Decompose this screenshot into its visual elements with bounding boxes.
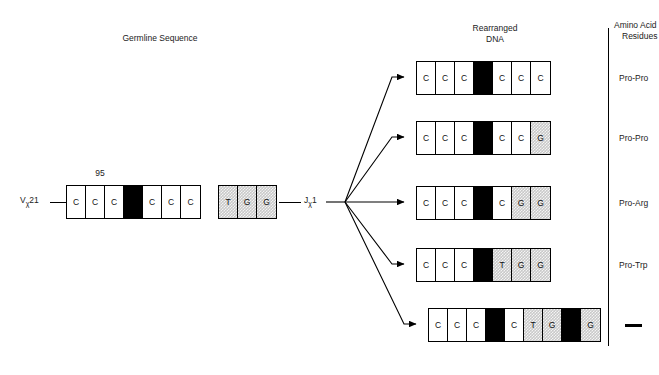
rearranged-row-2-cell-2: C [455,122,474,154]
rearranged-row-4-cell-2: C [455,249,474,281]
rearranged-row-5-cell-1: C [448,309,467,341]
germline-v-cell-6: C [181,186,200,218]
germline-v-cell-1: C [86,186,105,218]
j-gene-label: Jχ1 [304,195,317,209]
germline-v-cell-0: C [67,186,86,218]
rearranged-row-1-cell-2: C [455,62,474,94]
j-gene-number: 1 [312,195,317,205]
residue-label-1: Pro-Pro [619,73,648,84]
rearranged-row-5-cell-3 [486,309,505,341]
germline-v-cell-3 [124,186,143,218]
rearranged-row-4-cell-6: G [531,249,550,281]
rearranged-row-1-cell-4: C [493,62,512,94]
germline-j-cell-2: G [257,186,276,218]
rearranged-row-5-cell-7 [562,309,581,341]
amino-acid-title-line2: Residues [622,31,657,42]
rearranged-row-1-cell-1: C [436,62,455,94]
position-95-label: 95 [90,168,110,179]
residue-label-2: Pro-Pro [619,133,648,144]
rearranged-row-1-cell-3 [474,62,493,94]
germline-j-cell-0: T [219,186,238,218]
rearranged-row-5-cell-2: C [467,309,486,341]
residue-label-3: Pro-Arg [619,198,648,209]
germline-v-cell-2: C [105,186,124,218]
rearranged-row-1-cell-0: C [417,62,436,94]
rearranged-dna-title-line2: DNA [435,34,555,45]
rearranged-row-2-cell-4: C [493,122,512,154]
rearranged-row-5-cell-0: C [429,309,448,341]
v-gene-connector-line [50,202,66,203]
rearranged-row-4-cell-1: C [436,249,455,281]
rearranged-row-5-cell-4: C [505,309,524,341]
rearranged-row-4-strip: CCCTGG [416,248,551,282]
rearranged-row-3-cell-4: C [493,187,512,219]
rearranged-row-3-cell-3 [474,187,493,219]
germline-v-cell-4: C [143,186,162,218]
rearranged-dna-title-line1: Rearranged [435,23,555,34]
v-gene-label: Vχ21 [20,195,39,209]
rearranged-row-5-cell-5: T [524,309,543,341]
rearranged-row-2-cell-6: G [531,122,550,154]
rearranged-row-4-cell-4: T [493,249,512,281]
rearranged-row-3-cell-2: C [455,187,474,219]
rearranged-row-5-cell-8: G [581,309,600,341]
residue-label-4: Pro-Trp [619,260,648,271]
rearranged-row-3-strip: CCCCGG [416,186,551,220]
germline-v-cell-5: C [162,186,181,218]
germline-sequence-title: Germline Sequence [70,33,250,44]
rearranged-row-2-cell-1: C [436,122,455,154]
rearranged-row-3-cell-0: C [417,187,436,219]
rearranged-row-2-cell-0: C [417,122,436,154]
rearranged-row-4-cell-5: G [512,249,531,281]
rearranged-row-1-cell-6: C [531,62,550,94]
rearranged-row-3-cell-5: G [512,187,531,219]
rearranged-row-1-strip: CCCCCC [416,61,551,95]
germline-j-cell-1: G [238,186,257,218]
j-gene-connector-line [279,202,301,203]
diagram-canvas: Germline Sequence Rearranged DNA Amino A… [0,0,659,375]
rearranged-row-1-cell-5: C [512,62,531,94]
rearranged-row-4-cell-3 [474,249,493,281]
rearranged-row-3-cell-1: C [436,187,455,219]
rearranged-row-3-cell-6: G [531,187,550,219]
amino-acid-title-line1: Amino Acid [614,20,657,31]
germline-j-segment-strip: TGG [218,185,277,219]
residue-label-5-dash [625,324,642,327]
rearranged-row-5-cell-6: G [543,309,562,341]
amino-acid-column-divider [608,28,609,346]
rearranged-row-2-strip: CCCCCG [416,121,551,155]
rearranged-row-4-cell-0: C [417,249,436,281]
v-gene-number: 21 [29,195,38,205]
germline-v-segment-strip: CCCCCC [66,185,201,219]
rearranged-row-2-cell-5: C [512,122,531,154]
rearranged-row-2-cell-3 [474,122,493,154]
rearranged-row-5-strip: CCCCTGG [428,308,601,342]
